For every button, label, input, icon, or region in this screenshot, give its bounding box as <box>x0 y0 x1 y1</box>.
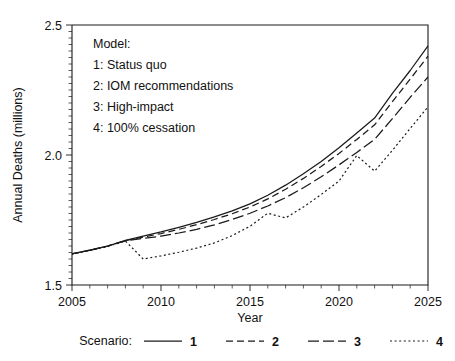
legend-label-4: 4 <box>436 335 443 349</box>
legend-title: Scenario: <box>79 334 132 348</box>
y-axis-title: Annual Deaths (millions) <box>11 87 25 222</box>
x-tick-label: 2020 <box>325 295 353 309</box>
y-tick-label: 2.5 <box>45 19 62 33</box>
model-annotation-entry-3: 3: High-impact <box>93 100 174 114</box>
legend-label-3: 3 <box>354 335 361 349</box>
model-annotation-entry-2: 2: IOM recommendations <box>93 79 233 93</box>
y-tick-label: 2.0 <box>45 149 62 163</box>
x-tick-label: 2005 <box>58 295 86 309</box>
line-chart: 20052010201520202025 1.52.02.5 Year Annu… <box>0 0 455 361</box>
y-tick-label: 1.5 <box>45 279 62 293</box>
x-tick-label: 2025 <box>414 295 442 309</box>
x-tick-label: 2010 <box>147 295 175 309</box>
x-axis-title: Year <box>237 311 262 325</box>
model-annotation-entry-4: 4: 100% cessation <box>93 121 195 135</box>
model-annotation-entry-1: 1: Status quo <box>93 58 167 72</box>
legend-label-1: 1 <box>190 335 197 349</box>
x-tick-label: 2015 <box>236 295 264 309</box>
model-annotation-title: Model: <box>93 37 131 51</box>
legend-label-2: 2 <box>272 335 279 349</box>
chart-figure: 20052010201520202025 1.52.02.5 Year Annu… <box>0 0 455 361</box>
